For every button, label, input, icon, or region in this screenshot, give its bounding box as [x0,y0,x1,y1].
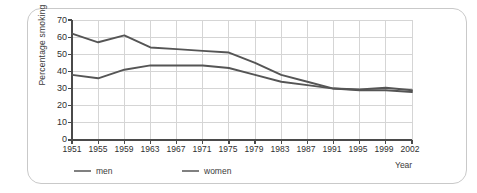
legend-label-women: women [204,166,231,176]
axes [72,20,412,140]
y-tick-10: 10 [45,118,67,127]
gridlines [72,20,412,140]
y-tick-0: 0 [45,135,67,144]
y-tick-40: 40 [45,67,67,76]
legend-item-women: women [182,166,231,176]
smoking-line-chart: Percentage smoking Year 70 60 50 40 30 2… [0,0,477,193]
y-tick-20: 20 [45,101,67,110]
legend-item-men: men [74,166,113,176]
y-tick-70: 70 [45,16,67,25]
y-tick-50: 50 [45,50,67,59]
legend-label-men: men [96,166,113,176]
y-tick-30: 30 [45,84,67,93]
legend-swatch-men [74,170,91,173]
x-axis-label: Year [395,160,412,170]
series-line-men [72,34,412,92]
series-line-women [72,65,412,90]
axis-ticks [68,20,412,144]
legend-swatch-women [182,170,199,173]
data-series [72,34,412,92]
x-tick-2002: 2002 [395,145,425,154]
y-tick-60: 60 [45,33,67,42]
